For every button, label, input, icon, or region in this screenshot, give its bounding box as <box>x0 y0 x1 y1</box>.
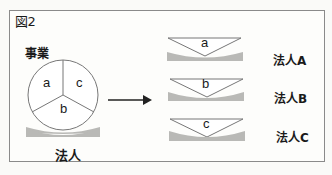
business-pie <box>28 60 98 130</box>
corporation-a-label: 法人A <box>273 51 306 68</box>
corporation-b-label: 法人B <box>274 89 307 106</box>
right-arrow-icon <box>108 95 152 105</box>
corporation-label: 法人 <box>55 145 81 164</box>
pie-segment-a: a <box>43 75 50 90</box>
split-segment-a: a <box>201 35 208 50</box>
corporation-c-label: 法人C <box>276 128 309 145</box>
pie-segment-b: b <box>60 101 67 116</box>
split-segment-c: c <box>203 116 210 131</box>
split-segment-b: b <box>202 76 209 91</box>
pie-segment-c: c <box>76 75 83 90</box>
